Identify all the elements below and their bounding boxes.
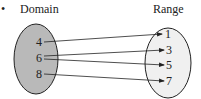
mapping-diagram: • Domain Range 4 6 8 1 3 5 7 [0,0,201,99]
domain-element-4: 4 [36,35,42,49]
arrow-4-to-1 [44,34,162,42]
range-element-5: 5 [166,58,172,72]
domain-element-8: 8 [36,67,42,81]
range-element-1: 1 [165,27,171,41]
range-element-3: 3 [166,43,172,57]
range-title: Range [153,2,184,16]
range-element-7: 7 [166,74,172,88]
domain-title: Domain [20,2,59,16]
domain-element-6: 6 [36,51,42,65]
bullet-marker: • [1,2,5,16]
